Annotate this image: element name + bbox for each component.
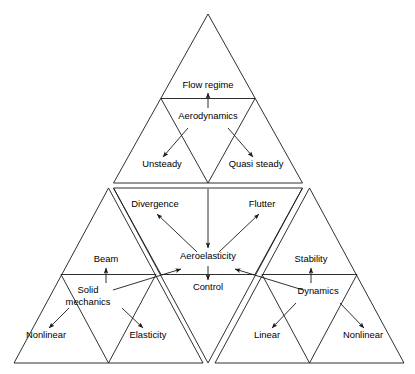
label-flutter: Flutter <box>249 198 276 209</box>
arrow-solid-mechanics-to-aeroelasticity <box>113 269 181 290</box>
label-unsteady: Unsteady <box>142 158 182 169</box>
arrow-solid-mechanics-to-nonlinear-left <box>49 308 69 328</box>
label-elasticity: Elasticity <box>130 329 167 340</box>
arrow-to-flutter <box>219 214 259 252</box>
aerodynamics-arrows <box>163 93 253 157</box>
arrow-to-divergence <box>157 214 197 252</box>
label-solid-mechanics-line1: Solid <box>78 284 99 295</box>
label-quasi-steady: Quasi steady <box>229 158 284 169</box>
label-nonlinear-left: Nonlinear <box>26 329 66 340</box>
diagram-canvas: Flow regime Aerodynamics Unsteady Quasi … <box>0 0 415 374</box>
label-linear: Linear <box>254 329 280 340</box>
diagram-labels: Flow regime Aerodynamics Unsteady Quasi … <box>26 79 383 340</box>
triangle-diagram-svg: Flow regime Aerodynamics Unsteady Quasi … <box>0 0 415 374</box>
label-control: Control <box>193 281 223 292</box>
label-aeroelasticity: Aeroelasticity <box>180 250 236 261</box>
label-dynamics: Dynamics <box>297 285 338 296</box>
label-divergence: Divergence <box>131 198 178 209</box>
label-beam: Beam <box>94 253 119 264</box>
arrow-aerodynamics-to-unsteady <box>163 128 188 157</box>
arrow-aerodynamics-to-quasi-steady <box>228 128 253 157</box>
label-flow-regime: Flow regime <box>182 79 233 90</box>
label-nonlinear-right: Nonlinear <box>343 329 383 340</box>
solid-mechanics-right-inner-edge <box>109 275 157 364</box>
arrow-dynamics-to-nonlinear-right <box>340 303 364 328</box>
label-solid-mechanics-line2: mechanics <box>66 296 111 307</box>
arrow-dynamics-to-linear <box>272 303 296 328</box>
label-stability: Stability <box>295 253 328 264</box>
arrow-solid-mechanics-to-elasticity <box>122 308 143 328</box>
label-aerodynamics: Aerodynamics <box>178 110 238 121</box>
